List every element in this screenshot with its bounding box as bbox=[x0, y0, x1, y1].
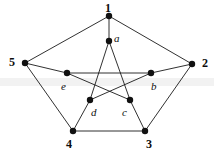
graph-node-3 bbox=[142, 128, 148, 134]
graph-edge-a-c bbox=[109, 41, 130, 100]
graph-edge-d-a bbox=[90, 41, 109, 100]
graph-edge-2-b bbox=[151, 64, 192, 73]
vertex-label-3: 3 bbox=[146, 138, 152, 150]
graph-node-a bbox=[106, 38, 112, 44]
graph-node-b bbox=[148, 70, 154, 76]
graph-edge-5-1 bbox=[25, 16, 109, 63]
vertex-label-5: 5 bbox=[9, 56, 15, 68]
edge-layer bbox=[25, 16, 192, 131]
graph-canvas bbox=[0, 0, 214, 155]
graph-node-e bbox=[64, 70, 70, 76]
graph-node-2 bbox=[189, 61, 195, 67]
node-layer bbox=[22, 13, 195, 134]
vertex-label-4: 4 bbox=[66, 138, 72, 150]
vertex-label-d: d bbox=[91, 107, 97, 118]
vertex-label-b: b bbox=[151, 81, 157, 92]
graph-edge-4-d bbox=[73, 100, 90, 131]
vertex-label-e: e bbox=[61, 81, 66, 92]
vertex-label-c: c bbox=[122, 107, 127, 118]
graph-node-d bbox=[87, 97, 93, 103]
vertex-label-2: 2 bbox=[202, 57, 208, 69]
vertex-label-a: a bbox=[114, 33, 120, 44]
graph-edge-1-2 bbox=[109, 16, 192, 64]
graph-figure: 1 2 3 4 5 a b c d e bbox=[0, 0, 214, 155]
graph-edge-3-c bbox=[130, 100, 145, 131]
vertex-label-1: 1 bbox=[105, 2, 111, 14]
graph-node-4 bbox=[70, 128, 76, 134]
graph-node-c bbox=[127, 97, 133, 103]
graph-node-5 bbox=[22, 60, 28, 66]
